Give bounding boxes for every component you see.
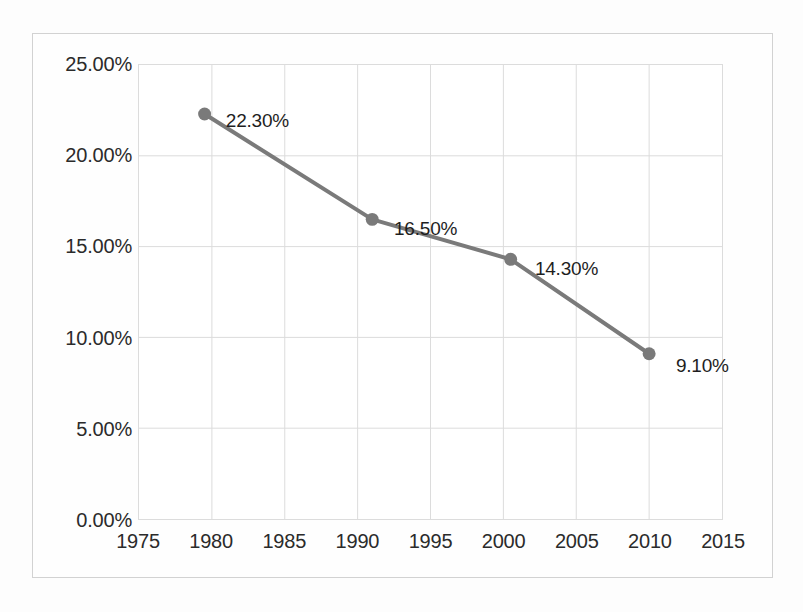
x-axis-tick-labels: 197519801985199019952000200520102015 [138, 530, 723, 564]
data-point-label: 9.10% [676, 355, 729, 377]
x-tick-label: 2000 [482, 530, 526, 553]
line-series [139, 65, 722, 519]
x-tick-label: 2015 [701, 530, 745, 553]
data-point-label: 14.30% [535, 258, 598, 280]
data-point-label: 22.30% [226, 110, 289, 132]
x-tick-label: 1990 [336, 530, 380, 553]
y-tick-label: 5.00% [76, 417, 132, 440]
x-tick-label: 2005 [555, 530, 599, 553]
data-point-marker [198, 108, 211, 121]
x-tick-label: 1995 [409, 530, 453, 553]
y-axis-tick-labels: 0.00%5.00%10.00%15.00%20.00%25.00% [38, 64, 132, 520]
plot-area [138, 64, 723, 520]
data-point-marker [504, 253, 517, 266]
y-tick-label: 20.00% [65, 144, 132, 167]
data-point-label: 16.50% [394, 218, 457, 240]
x-tick-label: 1985 [262, 530, 306, 553]
data-point-marker [366, 213, 379, 226]
y-tick-label: 15.00% [65, 235, 132, 258]
x-tick-label: 1975 [116, 530, 160, 553]
x-tick-label: 1980 [189, 530, 233, 553]
y-tick-label: 0.00% [76, 509, 132, 532]
y-tick-label: 25.00% [65, 53, 132, 76]
data-point-marker [643, 347, 656, 360]
scanned-page-background: 0.00%5.00%10.00%15.00%20.00%25.00% 22.30… [0, 0, 803, 612]
y-tick-label: 10.00% [65, 326, 132, 349]
x-tick-label: 2010 [628, 530, 672, 553]
